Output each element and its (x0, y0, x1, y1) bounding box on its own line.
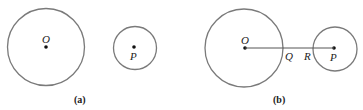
figure-a: O P (a) (8, 9, 157, 107)
label-o-b: O (241, 34, 249, 46)
label-o-a: O (42, 33, 50, 45)
center-dot-p-a (132, 45, 136, 49)
caption-b: (b) (273, 94, 285, 106)
label-q: Q (285, 50, 293, 62)
circles-diagram: O P (a) O P Q R (b) (0, 0, 363, 110)
figure-b: O P Q R (b) (205, 9, 357, 106)
center-dot-o-a (44, 45, 48, 49)
caption-a: (a) (74, 94, 86, 106)
label-p-a: P (129, 50, 137, 62)
label-p-b: P (329, 51, 337, 63)
label-r: R (303, 50, 311, 62)
